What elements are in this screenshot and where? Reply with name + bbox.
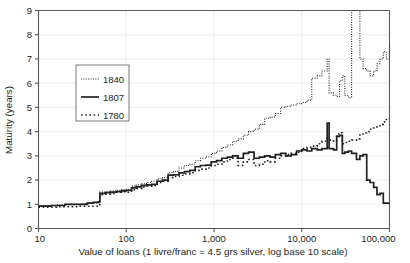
chart-container: 0123456789 101001,00010,000100,000 Matur… [0, 0, 410, 263]
y-tick-label-3: 3 [27, 150, 32, 161]
legend: 1840 1807 1780 [76, 65, 129, 121]
y-tick-label-5: 5 [27, 102, 32, 113]
legend-label-1807: 1807 [103, 92, 124, 103]
x-tick-label-100: 100 [118, 233, 134, 244]
y-tick-label-2: 2 [27, 174, 32, 185]
y-tick-label-6: 6 [27, 78, 32, 89]
y-tick-label-9: 9 [27, 5, 32, 16]
maturity-vs-loan-value-chart: 0123456789 101001,00010,000100,000 Matur… [0, 0, 410, 263]
x-axis-title: Value of loans (1 livre/franc = 4.5 grs … [78, 246, 347, 257]
y-tick-label-8: 8 [27, 29, 32, 40]
y-tick-label-7: 7 [27, 53, 32, 64]
legend-label-1780: 1780 [103, 110, 124, 121]
x-tick-label-100000: 100,000 [361, 233, 395, 244]
legend-label-1840: 1840 [103, 74, 124, 85]
y-axis-title: Maturity (years) [3, 86, 14, 154]
y-tick-label-4: 4 [27, 126, 32, 137]
x-tick-label-10: 10 [35, 233, 46, 244]
x-tick-label-10000: 10,000 [287, 233, 316, 244]
y-tick-label-0: 0 [27, 223, 32, 234]
y-tick-label-1: 1 [27, 199, 32, 210]
x-tick-label-1000: 1,000 [202, 233, 226, 244]
